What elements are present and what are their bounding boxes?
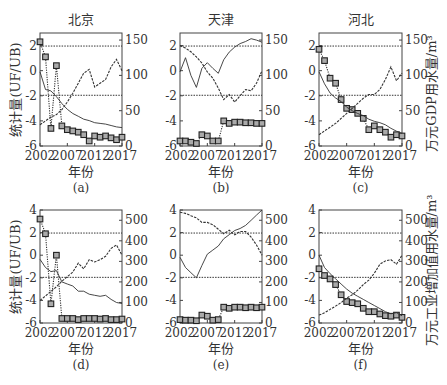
data-marker-square — [65, 316, 71, 322]
x-axis-label: 年份 — [68, 341, 94, 356]
y2-axis-label: 万元工业增加值用水量/m³ — [424, 195, 439, 347]
data-marker-square — [37, 216, 43, 222]
data-marker-square — [383, 129, 389, 135]
x-axis-label: 年份 — [208, 341, 234, 356]
data-marker-square — [199, 312, 205, 318]
y2-tick-label: 400 — [125, 234, 148, 248]
y-tick-label: 2 — [308, 39, 316, 53]
data-marker-square — [377, 127, 383, 133]
data-marker-square — [48, 301, 54, 307]
panel-label: (b) — [212, 181, 229, 195]
chart-panel-5: -6-4-20240100200300400500200220072012201… — [165, 203, 288, 372]
y2-tick-label: 100 — [265, 295, 288, 309]
data-marker-square — [205, 133, 211, 139]
data-marker-square — [316, 47, 322, 53]
data-marker-square — [237, 119, 243, 125]
data-marker-square — [248, 304, 254, 310]
x-tick-label: 2012 — [359, 149, 390, 163]
data-marker-square — [75, 317, 81, 323]
data-marker-square — [338, 292, 344, 298]
x-tick-label: 2002 — [25, 149, 56, 163]
data-marker-square — [215, 138, 221, 144]
x-tick-label: 2012 — [219, 149, 250, 163]
data-marker-square — [75, 129, 81, 135]
series-ub — [180, 212, 262, 255]
y-tick-label: -2 — [165, 89, 177, 103]
data-marker-square — [232, 119, 238, 125]
data-marker-square — [394, 132, 400, 138]
x-tick-label: 2017 — [387, 149, 418, 163]
data-marker-square — [97, 316, 103, 322]
x-tick-label: 2002 — [165, 326, 196, 340]
data-marker-square — [388, 134, 394, 140]
data-marker-square — [254, 305, 260, 311]
data-marker-square — [248, 120, 254, 126]
panel-title: 北京 — [68, 12, 94, 27]
x-tick-label: 2002 — [25, 326, 56, 340]
data-marker-square — [372, 123, 378, 129]
data-marker-square — [221, 118, 227, 124]
data-marker-square — [114, 317, 120, 323]
data-marker-square — [226, 306, 232, 312]
data-marker-square — [366, 127, 372, 133]
data-marker-square — [327, 276, 333, 282]
data-marker-square — [59, 123, 65, 129]
y-tick-label: 2 — [169, 226, 177, 240]
data-marker-square — [92, 133, 98, 139]
data-marker-square — [355, 301, 361, 307]
data-marker-square — [97, 134, 103, 140]
series-ub — [180, 46, 262, 103]
x-tick-label: 2012 — [219, 326, 250, 340]
series-water-use — [180, 210, 262, 278]
y-tick-label: 0 — [29, 248, 37, 262]
panel-title: 河北 — [348, 12, 374, 27]
panel-label: (e) — [213, 358, 229, 372]
y-tick-label: -4 — [165, 293, 177, 307]
y2-tick-label: 150 — [125, 33, 148, 47]
x-tick-label: 2002 — [165, 149, 196, 163]
panel-label: (a) — [73, 181, 90, 195]
data-marker-square — [221, 304, 227, 310]
y2-tick-label: 100 — [125, 295, 148, 309]
x-tick-label: 2007 — [52, 326, 83, 340]
x-tick-label: 2007 — [192, 326, 223, 340]
panel-label: (c) — [352, 181, 368, 195]
data-marker-square — [43, 231, 49, 237]
y2-tick-label: 300 — [265, 254, 288, 268]
y-tick-label: -4 — [304, 114, 316, 128]
data-marker-square — [226, 121, 232, 127]
y-tick-label: -2 — [25, 271, 37, 285]
data-marker-square — [119, 316, 125, 322]
chart-panel-1: -6-4-2020501001502002200720122017北京年份(a)… — [8, 12, 148, 195]
y2-tick-label: 200 — [125, 275, 148, 289]
chart-panel-2: -6-4-2020501001502002200720122017天津年份(b) — [165, 12, 288, 195]
x-tick-label: 2012 — [79, 326, 110, 340]
x-tick-label: 2017 — [247, 326, 278, 340]
data-marker-square — [183, 138, 189, 144]
x-tick-label: 2002 — [304, 149, 335, 163]
data-marker-square — [86, 138, 92, 144]
plot-frame — [319, 33, 402, 146]
panel-title: 天津 — [208, 12, 234, 27]
y-tick-label: -4 — [25, 114, 37, 128]
data-marker-square — [59, 316, 65, 322]
chart-panel-6: -6-4-20240100200300400500200220072012201… — [304, 195, 439, 372]
x-tick-label: 2012 — [79, 149, 110, 163]
data-marker-square — [194, 141, 200, 147]
data-marker-square — [388, 313, 394, 319]
y-tick-label: -2 — [165, 271, 177, 285]
data-marker-square — [37, 39, 43, 45]
y-axis-label: 统计量(UF/UB) — [8, 219, 23, 313]
x-tick-label: 2017 — [387, 326, 418, 340]
data-marker-square — [316, 266, 322, 272]
data-marker-square — [243, 305, 249, 311]
x-tick-label: 2007 — [331, 149, 362, 163]
data-marker-square — [237, 304, 243, 310]
data-marker-square — [322, 273, 328, 279]
data-marker-square — [210, 138, 216, 144]
data-marker-square — [333, 282, 339, 288]
x-tick-label: 2007 — [192, 149, 223, 163]
y-tick-label: -4 — [165, 114, 177, 128]
data-marker-square — [177, 317, 183, 323]
data-marker-square — [54, 63, 60, 69]
